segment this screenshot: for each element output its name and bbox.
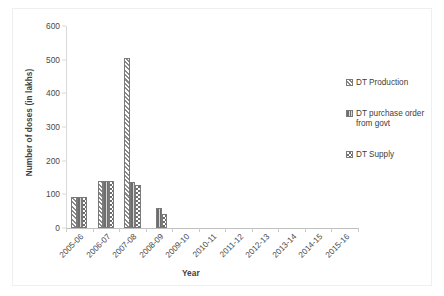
legend-swatch-icon-dt-supply (346, 151, 353, 158)
x-axis-title: Year (182, 268, 200, 278)
bar (109, 181, 114, 228)
bar-group-2014-15 (310, 26, 326, 228)
y-tick-mark (62, 93, 66, 94)
bar (135, 185, 140, 228)
y-tick-mark (62, 160, 66, 161)
x-tick-mark (146, 228, 147, 232)
x-tick-mark (93, 228, 94, 232)
legend-item-dt-supply: DT Supply (346, 150, 438, 161)
bar-group-2012-13 (257, 26, 273, 228)
bar-group-2009-10 (177, 26, 193, 228)
x-tick-mark (305, 228, 306, 232)
bar-group-2011-12 (230, 26, 246, 228)
legend-label: DT purchase order from govt (356, 109, 438, 130)
legend-label: DT Supply (356, 150, 394, 161)
x-tick-mark (358, 228, 359, 232)
y-tick-mark (62, 194, 66, 195)
x-axis-line (66, 228, 358, 229)
plot-area: 0100200300400500600 (66, 26, 358, 228)
chart-container: Number of doses (in lakhs) 0100200300400… (0, 0, 444, 296)
bar (82, 197, 87, 228)
bar-group-2006-07 (98, 26, 114, 228)
y-tick-mark (62, 26, 66, 27)
legend-label: DT Production (356, 78, 408, 89)
x-tick-mark (252, 228, 253, 232)
bar-group-2005-06 (71, 26, 87, 228)
x-tick-mark (331, 228, 332, 232)
y-tick-mark (62, 59, 66, 60)
x-tick-mark (278, 228, 279, 232)
y-axis-title: Number of doses (in lakhs) (25, 48, 34, 198)
bar-group-2007-08 (124, 26, 140, 228)
x-tick-mark (172, 228, 173, 232)
legend-swatch-icon-dt-production (346, 79, 353, 86)
chart-legend: DT Production DT purchase order from gov… (346, 78, 438, 180)
y-tick-mark (62, 127, 66, 128)
x-tick-mark (225, 228, 226, 232)
x-tick-mark (66, 228, 67, 232)
legend-swatch-icon-dt-purchase-order (346, 110, 353, 117)
x-tick-mark (199, 228, 200, 232)
x-tick-mark (119, 228, 120, 232)
bar-group-2008-09 (151, 26, 167, 228)
legend-item-dt-purchase-order: DT purchase order from govt (346, 109, 438, 130)
legend-item-dt-production: DT Production (346, 78, 438, 89)
bar (162, 214, 167, 228)
bar-group-2013-14 (283, 26, 299, 228)
bar-group-2010-11 (204, 26, 220, 228)
